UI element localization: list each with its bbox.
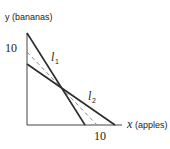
line2-subscript: 2 xyxy=(92,97,96,104)
x-axis-unit: (apples) xyxy=(135,120,168,130)
y-tick-label: 10 xyxy=(5,41,17,55)
line-l1 xyxy=(27,33,85,125)
x-axis-var: x xyxy=(126,117,133,131)
line-l2 xyxy=(27,64,115,125)
budget-lines-diagram: y (bananas) 10 10 x (apples) l 1 l 2 xyxy=(0,0,170,149)
line1-subscript: 1 xyxy=(55,58,59,65)
y-axis-label: y (bananas) xyxy=(5,12,53,22)
x-tick-label: 10 xyxy=(94,129,106,143)
